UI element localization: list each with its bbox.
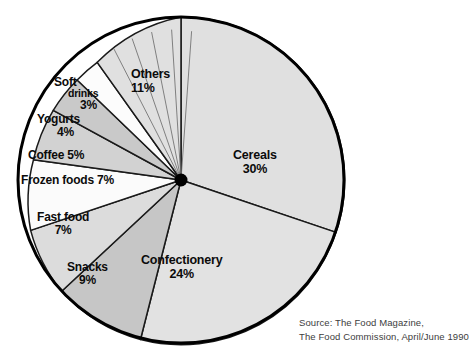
slice-label-snacks-value: 9% xyxy=(67,274,108,287)
slice-label-confectionery: Confectionery 24% xyxy=(141,253,222,281)
slice-label-frozen-foods: Frozen foods 7% xyxy=(21,174,114,187)
source-attribution: Source: The Food Magazine, The Food Comm… xyxy=(299,316,469,344)
slice-label-snacks-name: Snacks xyxy=(67,261,108,274)
slice-label-yogurts: Yogurts 4% xyxy=(37,113,80,140)
slice-label-confectionery-value: 24% xyxy=(141,267,222,281)
slice-label-yogurts-name: Yogurts xyxy=(37,113,80,126)
slice-label-confectionery-name: Confectionery xyxy=(141,253,222,267)
slice-label-snacks: Snacks 9% xyxy=(67,261,108,288)
slice-label-soft-drinks-value: 3% xyxy=(80,99,98,112)
pie-center-hub xyxy=(175,174,188,187)
source-line-2: The Food Commission, April/June 1990 xyxy=(299,330,469,344)
slice-label-soft-drinks: Soft drinks 3% xyxy=(54,76,98,113)
slice-label-fast-food-name: Fast food xyxy=(37,211,89,224)
slice-label-fast-food: Fast food 7% xyxy=(37,211,89,238)
slice-label-yogurts-value: 4% xyxy=(57,126,80,139)
slice-label-cereals-value: 30% xyxy=(233,162,277,176)
slice-label-others: Others 11% xyxy=(131,67,170,95)
source-line-1: Source: The Food Magazine, xyxy=(299,316,469,330)
slice-label-coffee: Coffee 5% xyxy=(28,149,84,162)
slice-label-coffee-value: 5% xyxy=(67,148,84,162)
slice-label-frozen-foods-name: Frozen foods xyxy=(21,173,97,187)
slice-label-cereals: Cereals 30% xyxy=(233,148,277,176)
slice-label-others-name: Others xyxy=(131,67,170,81)
slice-label-fast-food-value: 7% xyxy=(37,224,89,237)
slice-label-coffee-name: Coffee xyxy=(28,148,67,162)
slice-label-cereals-name: Cereals xyxy=(233,148,277,162)
slice-label-frozen-foods-value: 7% xyxy=(97,173,114,187)
slice-label-others-value: 11% xyxy=(131,81,170,95)
